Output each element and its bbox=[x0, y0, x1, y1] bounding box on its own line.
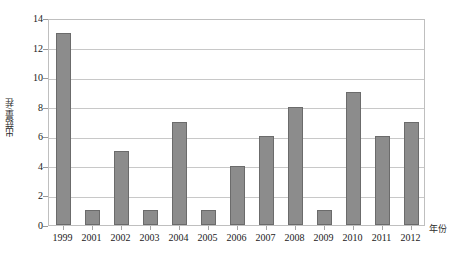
x-tick-mark bbox=[295, 226, 296, 230]
x-tick-mark bbox=[237, 226, 238, 230]
x-tick-mark bbox=[121, 226, 122, 230]
gridline bbox=[49, 49, 424, 50]
bar bbox=[288, 107, 303, 225]
x-tick-mark bbox=[382, 226, 383, 230]
bar bbox=[346, 92, 361, 225]
bar bbox=[56, 33, 71, 225]
x-tick-mark bbox=[179, 226, 180, 230]
bar bbox=[85, 210, 100, 225]
bar bbox=[404, 122, 419, 226]
x-tick-mark bbox=[411, 226, 412, 230]
y-tick-mark bbox=[43, 226, 48, 227]
plot-area bbox=[48, 19, 425, 226]
y-tick-label: 6 bbox=[13, 132, 43, 142]
bar bbox=[375, 136, 390, 225]
top-caption-remnant bbox=[24, 0, 204, 8]
gridline bbox=[49, 79, 424, 80]
x-tick-mark bbox=[63, 226, 64, 230]
y-tick-label: 14 bbox=[13, 14, 43, 24]
bar-chart: 出菇量/茬 02468101214 1999200120022003200420… bbox=[0, 0, 460, 266]
bar bbox=[259, 136, 274, 225]
y-tick-label: 4 bbox=[13, 162, 43, 172]
x-axis-title: 年份 bbox=[429, 224, 447, 235]
x-tick-mark bbox=[150, 226, 151, 230]
x-tick-mark bbox=[353, 226, 354, 230]
y-tick-label: 8 bbox=[13, 103, 43, 113]
x-tick-mark bbox=[208, 226, 209, 230]
bar bbox=[143, 210, 158, 225]
y-tick-label: 0 bbox=[13, 221, 43, 231]
y-tick-label: 10 bbox=[13, 73, 43, 83]
bar bbox=[201, 210, 216, 225]
y-tick-label: 12 bbox=[13, 44, 43, 54]
gridline bbox=[49, 108, 424, 109]
x-tick-mark bbox=[92, 226, 93, 230]
y-tick-label: 2 bbox=[13, 191, 43, 201]
bar bbox=[230, 166, 245, 225]
bar bbox=[172, 122, 187, 226]
x-tick-label: 2012 bbox=[391, 232, 431, 244]
gridline bbox=[49, 138, 424, 139]
bar bbox=[317, 210, 332, 225]
bar bbox=[114, 151, 129, 225]
x-tick-mark bbox=[266, 226, 267, 230]
x-tick-mark bbox=[324, 226, 325, 230]
